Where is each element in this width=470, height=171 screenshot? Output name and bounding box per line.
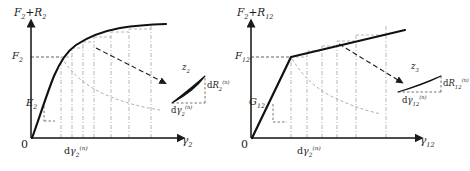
y-axis-label: F2+R2 — [14, 7, 46, 21]
shear-response-panel: F2+R12 F12 G12 0 dγ2(n) γ12 z3 dR12(n) d… — [235, 0, 470, 171]
slope-label: G12 — [249, 97, 265, 109]
slope-label: E2 — [26, 98, 37, 110]
inset-right-label: dR12(n) — [443, 78, 469, 90]
inset-bottom-label: dγ12(n) — [402, 95, 427, 107]
left-plot-svg — [0, 0, 235, 171]
y-axis-label: F2+R12 — [237, 7, 273, 21]
x-axis-label: γ12 — [420, 135, 435, 149]
x-axis-label: γ2 — [182, 135, 192, 149]
inset-sliver-shape — [398, 76, 441, 92]
transverse-response-panel: F2+R2 F2 E2 0 dγ2(n) γ2 z2 dR2(n) dγ2(n) — [0, 0, 235, 171]
inset-label: z2 — [182, 63, 190, 74]
origin-label: 0 — [241, 139, 248, 150]
slope-triangle — [44, 106, 55, 121]
unloading-decay-curve — [292, 59, 381, 114]
origin-label: 0 — [21, 139, 28, 150]
increment-gridlines — [291, 25, 386, 138]
slope-triangle — [273, 104, 287, 122]
inset-lens-shape — [172, 76, 205, 103]
increment-gridlines — [61, 26, 151, 138]
unloading-decay-curve — [61, 57, 160, 110]
inset-leader-arrow — [339, 44, 398, 80]
loading-curve — [32, 24, 166, 138]
right-plot-svg — [235, 0, 470, 171]
increment-label: dγ2(n) — [297, 146, 321, 159]
inset-label: z3 — [411, 62, 419, 73]
figure-root: F2+R2 F2 E2 0 dγ2(n) γ2 z2 dR2(n) dγ2(n) — [0, 0, 470, 171]
level-label: F12 — [235, 51, 250, 63]
inset-bottom-label: dγ2(n) — [171, 105, 192, 117]
level-label: F2 — [12, 51, 23, 63]
increment-label: dγ2(n) — [64, 146, 88, 159]
inset-right-label: dR2(n) — [207, 80, 229, 92]
